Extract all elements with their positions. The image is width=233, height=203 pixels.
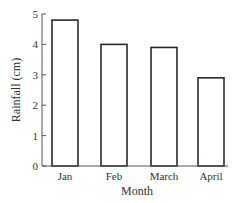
x-axis-ticks: JanFebMarchApril — [58, 170, 223, 182]
y-tick-label: 0 — [33, 160, 39, 172]
x-tick-label: March — [150, 170, 179, 182]
x-tick-label: April — [199, 170, 222, 182]
y-tick-label: 4 — [33, 38, 39, 50]
y-tick-label: 1 — [33, 130, 39, 142]
bars — [52, 20, 224, 166]
y-tick-label: 3 — [33, 69, 39, 81]
bar-march — [151, 47, 177, 166]
y-tick-label: 2 — [33, 99, 39, 111]
x-tick-label: Feb — [106, 170, 123, 182]
y-axis-title: Rainfall (cm) — [9, 58, 23, 122]
x-axis-title: Month — [121, 184, 153, 198]
bar-chart: 012345 JanFebMarchApril Month Rainfall (… — [0, 0, 233, 203]
y-tick-label: 5 — [33, 8, 39, 20]
bar-feb — [101, 44, 127, 166]
x-tick-label: Jan — [58, 170, 73, 182]
y-axis-ticks: 012345 — [33, 8, 47, 172]
bar-april — [198, 78, 224, 166]
bar-jan — [52, 20, 78, 166]
